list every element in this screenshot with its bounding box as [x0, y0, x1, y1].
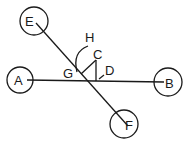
diagram-canvas: A B E F H C D G [0, 0, 189, 150]
diagram-svg: A B E F H C D G [0, 0, 189, 150]
triangle-hypotenuse [81, 60, 96, 74]
node-f-label: F [125, 118, 133, 133]
node-b-label: B [165, 76, 174, 91]
node-e-label: E [25, 14, 34, 29]
label-d: D [105, 63, 114, 78]
label-h: H [85, 30, 94, 45]
angle-tick-d [99, 75, 104, 79]
label-g: G [63, 66, 73, 81]
angle-arc-h [76, 46, 88, 72]
node-e: E [20, 7, 48, 35]
node-f: F [110, 110, 138, 138]
node-a-label: A [14, 73, 23, 88]
label-c: C [93, 47, 102, 62]
